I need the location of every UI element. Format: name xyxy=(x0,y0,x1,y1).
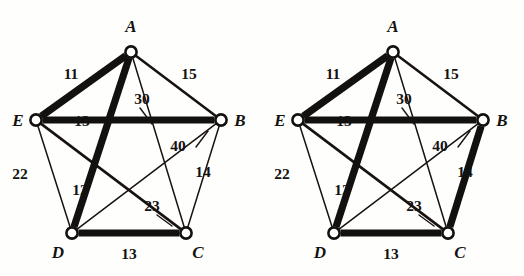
edge-weight-E-B: 13 xyxy=(336,112,352,129)
node-C xyxy=(442,227,453,238)
node-label-A: A xyxy=(386,17,398,36)
node-label-B: B xyxy=(233,111,245,130)
leader-40 xyxy=(458,131,470,147)
node-A xyxy=(387,46,398,57)
edge-weight-B-C: 14 xyxy=(457,163,473,180)
node-label-D: D xyxy=(313,243,326,262)
edge-weight-E-C: 23 xyxy=(144,197,160,214)
edge-weight-A-B: 15 xyxy=(443,65,459,82)
edge-weight-D-C: 13 xyxy=(383,245,399,262)
node-B xyxy=(477,114,488,125)
node-E xyxy=(292,114,303,125)
node-B xyxy=(215,114,226,125)
node-label-C: C xyxy=(454,243,466,262)
edge-weight-E-C: 23 xyxy=(406,197,422,214)
node-label-A: A xyxy=(124,17,136,36)
node-label-D: D xyxy=(51,243,64,262)
edge-weight-A-E: 11 xyxy=(326,65,341,82)
edge-weight-A-C: 30 xyxy=(396,90,412,107)
weighted-graph-left: ABCDE11153012132223144013 xyxy=(11,17,245,262)
figure-canvas: ABCDE11153012132223144013ABCDE1115301213… xyxy=(0,0,524,276)
node-A xyxy=(125,46,136,57)
node-D xyxy=(328,227,339,238)
node-label-B: B xyxy=(495,111,507,130)
node-label-C: C xyxy=(192,243,204,262)
edge-weight-A-E: 11 xyxy=(64,65,79,82)
edge-weight-B-D: 40 xyxy=(432,137,448,154)
edge-weight-A-D: 12 xyxy=(334,181,350,198)
edge-weight-B-C: 14 xyxy=(195,163,211,180)
node-label-E: E xyxy=(11,111,23,130)
edge-weight-D-C: 13 xyxy=(121,245,137,262)
node-E xyxy=(30,114,41,125)
weighted-graph-right: ABCDE11153012132223144013 xyxy=(273,17,507,262)
leader-40 xyxy=(196,131,208,147)
edge-weight-E-D: 22 xyxy=(274,165,290,182)
node-label-E: E xyxy=(273,111,285,130)
edge-weight-B-D: 40 xyxy=(170,137,186,154)
edge-weight-A-C: 30 xyxy=(134,90,150,107)
edge-weight-E-D: 22 xyxy=(12,165,28,182)
edge-weight-E-B: 13 xyxy=(74,112,90,129)
two-weighted-graphs-figure: ABCDE11153012132223144013ABCDE1115301213… xyxy=(0,0,524,276)
edge-E-C xyxy=(41,124,181,229)
edge-weight-A-D: 12 xyxy=(72,181,88,198)
edge-E-C xyxy=(303,124,443,229)
node-C xyxy=(180,227,191,238)
edge-weight-A-B: 15 xyxy=(181,65,197,82)
node-D xyxy=(66,227,77,238)
